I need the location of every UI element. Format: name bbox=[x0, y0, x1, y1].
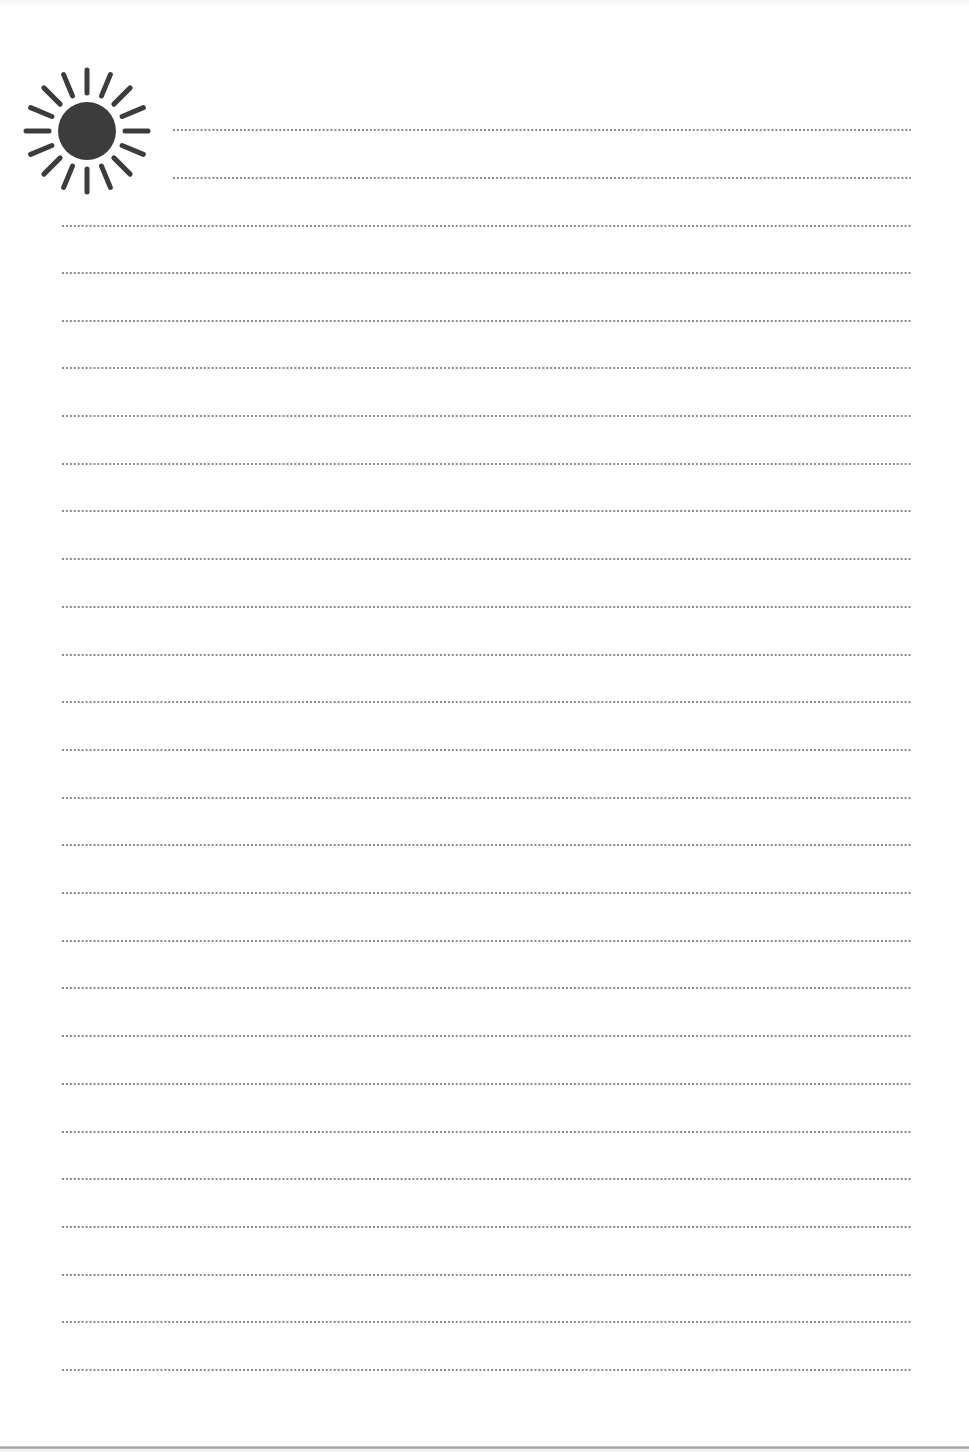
ruled-line bbox=[61, 1274, 911, 1276]
ruled-line bbox=[61, 510, 911, 512]
sun-ray bbox=[44, 158, 60, 174]
ruled-line bbox=[61, 606, 911, 608]
notepaper-page bbox=[0, 0, 969, 1452]
ruled-line bbox=[61, 987, 911, 989]
sun-ray bbox=[64, 166, 73, 187]
scan-ghost-top bbox=[0, 0, 969, 8]
ruled-line bbox=[61, 1321, 911, 1323]
sun-ray bbox=[31, 108, 52, 117]
ruled-line bbox=[61, 1035, 911, 1037]
ruled-line bbox=[61, 654, 911, 656]
sun-ray bbox=[114, 158, 130, 174]
ruled-line bbox=[61, 749, 911, 751]
sun-ray bbox=[122, 146, 143, 155]
sun-core bbox=[58, 102, 116, 160]
ruled-line bbox=[61, 1178, 911, 1180]
sun-ray bbox=[114, 88, 130, 104]
ruled-line bbox=[61, 701, 911, 703]
ruled-line bbox=[61, 463, 911, 465]
ruled-line bbox=[61, 844, 911, 846]
sun-ray bbox=[31, 146, 52, 155]
sun-ray bbox=[122, 108, 143, 117]
ruled-line bbox=[61, 1083, 911, 1085]
sun-ray bbox=[102, 166, 111, 187]
ruled-line bbox=[61, 940, 911, 942]
ruled-line bbox=[61, 367, 911, 369]
ruled-line bbox=[61, 320, 911, 322]
sun-icon bbox=[20, 64, 154, 198]
sun-ray bbox=[44, 88, 60, 104]
ruled-line bbox=[61, 558, 911, 560]
ruled-line bbox=[61, 1369, 911, 1371]
ruled-line bbox=[61, 415, 911, 417]
ruled-line bbox=[61, 1131, 911, 1133]
short-ruled-line bbox=[172, 177, 911, 179]
ruled-line bbox=[61, 892, 911, 894]
ruled-line bbox=[61, 797, 911, 799]
short-ruled-line bbox=[172, 129, 911, 131]
sun-ray bbox=[64, 75, 73, 96]
ruled-line bbox=[61, 1226, 911, 1228]
ruled-line bbox=[61, 272, 911, 274]
sun-ray bbox=[102, 75, 111, 96]
ruled-line bbox=[61, 225, 911, 227]
